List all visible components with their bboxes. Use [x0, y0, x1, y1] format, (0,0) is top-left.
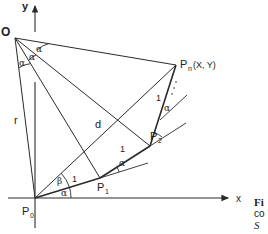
svg-text:P: P [150, 130, 157, 142]
axes [8, 6, 228, 228]
svg-text:P: P [97, 181, 104, 193]
unit-label-p1p2: 1 [120, 144, 125, 154]
ellipsis-dots [171, 81, 177, 95]
origin-label: O [1, 25, 10, 39]
angle-alpha-o3: α [19, 58, 25, 68]
svg-text:Fi: Fi [254, 196, 264, 208]
svg-text:(X, Y): (X, Y) [193, 60, 216, 70]
svg-text:n: n [188, 65, 192, 72]
angle-alpha-p1: α [119, 158, 125, 168]
svg-text:2: 2 [158, 137, 162, 144]
svg-text:P: P [180, 58, 187, 70]
segment-p0-p1 [35, 178, 100, 198]
point-p0-label: P 0 [22, 205, 34, 219]
angle-alpha-p0: α [61, 188, 67, 198]
ray-o-p1 [15, 38, 100, 178]
x-axis-label: x [236, 193, 241, 204]
caption-fragment: Fi co S [254, 196, 265, 231]
point-p1-label: P 1 [97, 181, 109, 195]
svg-text:co: co [254, 208, 265, 219]
point-pn-label: P n (X, Y) [180, 58, 216, 72]
y-axis-label: y [22, 0, 29, 12]
svg-text:0: 0 [30, 212, 34, 219]
svg-text:P: P [22, 205, 29, 217]
angle-alpha-o1: α [36, 44, 42, 54]
angle-alpha-o2: α [29, 52, 35, 62]
segment-d-label: d [95, 118, 101, 130]
unit-label-p2pn: 1 [156, 93, 161, 103]
point-p2-label: P 2 [150, 130, 162, 144]
angle-alpha-p2: α [164, 103, 170, 113]
angle-beta-p0: β [57, 176, 62, 186]
unit-label-p0p1: 1 [72, 174, 77, 184]
extension-lines [100, 95, 187, 178]
svg-text:S: S [254, 219, 260, 231]
svg-text:1: 1 [105, 188, 109, 195]
diagram-canvas: y x O α α α r d β 1 α 1 α 1 α P 0 P 1 P … [0, 0, 268, 234]
segment-r-label: r [14, 114, 18, 126]
